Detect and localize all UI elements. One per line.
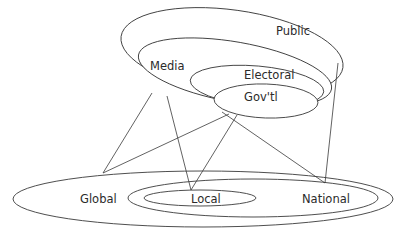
govtl-label: Gov'tl <box>244 90 278 104</box>
nested-arenas-diagram: Public Media Electoral Gov'tl Global Nat… <box>0 0 404 239</box>
link-media-global <box>103 93 152 173</box>
global-label: Global <box>80 192 117 206</box>
link-govtl-global <box>103 114 229 173</box>
local-label: Local <box>191 192 221 206</box>
media-label: Media <box>150 59 185 73</box>
bottom-group: Global National Local <box>13 171 393 227</box>
link-govtl-local <box>191 115 237 190</box>
public-label: Public <box>276 24 310 38</box>
top-group: Public Media Electoral Gov'tl <box>115 0 349 120</box>
link-media-national <box>222 112 325 183</box>
electoral-label: Electoral <box>244 68 294 82</box>
link-media-local <box>167 96 191 190</box>
national-label: National <box>302 192 350 206</box>
